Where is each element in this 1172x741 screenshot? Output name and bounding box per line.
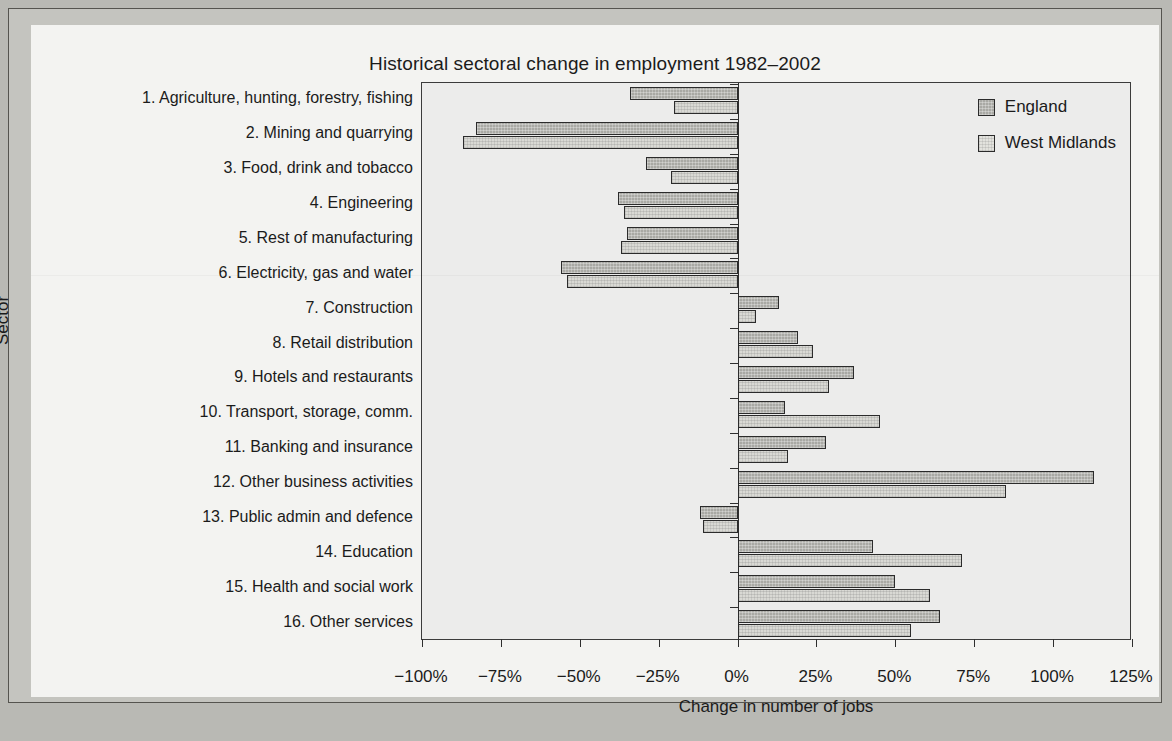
x-axis-tick [1053,639,1054,647]
x-tick-label: −100% [381,667,461,687]
x-tick-label: 50% [854,667,934,687]
category-tick [730,363,738,364]
category-tick [730,258,738,259]
category-tick [730,119,738,120]
y-tick-label: 5. Rest of manufacturing [53,229,413,247]
page-background: Historical sectoral change in employment… [0,0,1172,741]
category-tick [730,224,738,225]
y-tick-label: 11. Banking and insurance [53,438,413,456]
bar-england [738,610,940,623]
x-tick-label: −25% [618,667,698,687]
x-axis-tick [580,639,581,647]
bar-england [476,122,738,135]
bar-england [738,331,798,344]
y-axis-tick-labels: 1. Agriculture, hunting, forestry, fishi… [53,25,413,697]
bar-group [422,571,1130,606]
legend-label-england: England [1005,97,1067,117]
category-tick [730,433,738,434]
y-tick-label: 16. Other services [53,613,413,631]
bar-group [422,502,1130,537]
bar-group [422,432,1130,467]
bar-england [738,366,855,379]
x-tick-label: −50% [539,667,619,687]
bar-england [738,296,779,309]
bar-west-midlands [567,275,737,288]
x-tick-label: 0% [697,667,777,687]
bar-west-midlands [738,345,814,358]
bar-west-midlands [738,380,830,393]
bar-west-midlands [738,310,757,323]
bar-england [627,227,737,240]
bar-england [738,540,874,553]
bar-group [422,536,1130,571]
bar-west-midlands [621,241,738,254]
legend-swatch-icon-england [978,99,995,116]
y-tick-label: 1. Agriculture, hunting, forestry, fishi… [53,89,413,107]
x-axis-tick [895,639,896,647]
x-axis-tick [659,639,660,647]
bar-west-midlands [738,624,912,637]
bar-england [738,401,785,414]
legend-item-england: England [978,97,1116,117]
y-tick-label: 2. Mining and quarrying [53,124,413,142]
category-tick [730,503,738,504]
y-tick-label: 6. Electricity, gas and water [53,264,413,282]
bar-west-midlands [738,485,1006,498]
category-tick [730,154,738,155]
y-tick-label: 10. Transport, storage, comm. [53,403,413,421]
x-tick-label: 100% [1012,667,1092,687]
bar-england [646,157,738,170]
legend-swatch-icon-west-midlands [978,135,995,152]
x-axis-tick [738,639,739,647]
y-tick-label: 3. Food, drink and tobacco [53,159,413,177]
bar-group [422,292,1130,327]
y-tick-label: 14. Education [53,543,413,561]
category-tick [730,607,738,608]
x-tick-label: 25% [775,667,855,687]
category-tick [730,537,738,538]
x-axis-tick [501,639,502,647]
legend-label-west-midlands: West Midlands [1005,133,1116,153]
scan-frame-border: Historical sectoral change in employment… [8,8,1162,703]
bar-group [422,467,1130,502]
x-axis-title: Change in number of jobs [421,697,1131,717]
x-tick-label: −75% [460,667,540,687]
x-axis-tick [816,639,817,647]
y-tick-label: 9. Hotels and restaurants [53,368,413,386]
bar-group [422,327,1130,362]
y-tick-label: 8. Retail distribution [53,334,413,352]
y-tick-label: 7. Construction [53,299,413,317]
plot-area: England West Midlands [421,82,1131,640]
bar-west-midlands [624,206,738,219]
bar-england [738,471,1095,484]
x-tick-label: 75% [933,667,1013,687]
bar-england [618,192,738,205]
bar-group [422,188,1130,223]
bar-england [700,506,738,519]
bar-england [738,575,896,588]
bar-england [630,87,737,100]
x-axis-tick [422,639,423,647]
y-tick-label: 4. Engineering [53,194,413,212]
bar-group [422,606,1130,641]
chart-legend: England West Midlands [978,97,1116,169]
bar-england [738,436,826,449]
bar-group [422,257,1130,292]
bar-group [422,362,1130,397]
bar-west-midlands [738,554,962,567]
bar-west-midlands [738,415,880,428]
y-tick-label: 15. Health and social work [53,578,413,596]
bar-west-midlands [703,520,738,533]
y-tick-label: 13. Public admin and defence [53,508,413,526]
y-tick-label: 12. Other business activities [53,473,413,491]
category-tick [730,328,738,329]
category-tick [730,189,738,190]
y-axis-title: Sector [0,296,13,345]
x-axis-tick [1132,639,1133,647]
x-axis-tick [974,639,975,647]
bar-england [561,261,738,274]
bar-west-midlands [738,589,930,602]
category-tick [730,468,738,469]
x-tick-label: 125% [1091,667,1171,687]
legend-item-west-midlands: West Midlands [978,133,1116,153]
